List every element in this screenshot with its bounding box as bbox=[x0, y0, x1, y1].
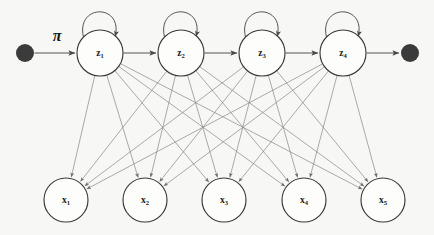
emission-edge-z1-x5 bbox=[120, 63, 362, 189]
observation-node-x5[interactable]: x5 bbox=[361, 178, 405, 222]
hidden-state-node-z1[interactable]: z1 bbox=[77, 30, 123, 76]
emission-edge-layer bbox=[71, 63, 377, 189]
annotation-layer: π bbox=[53, 27, 63, 44]
emission-edge-z1-x3 bbox=[115, 70, 209, 182]
emission-edge-z4-x4 bbox=[310, 75, 337, 178]
end-dot[interactable] bbox=[401, 44, 419, 62]
node-layer: z1z2z3z4x1x2x3x4x5 bbox=[44, 30, 405, 222]
emission-edge-z3-x3 bbox=[230, 75, 256, 177]
diagram-canvas: z1z2z3z4x1x2x3x4x5 π bbox=[0, 0, 434, 235]
observation-node-x2[interactable]: x2 bbox=[123, 178, 167, 222]
emission-edge-z1-x1 bbox=[71, 75, 95, 177]
hidden-state-node-z4[interactable]: z4 bbox=[320, 30, 366, 76]
emission-edge-z1-x2 bbox=[107, 75, 139, 178]
graphical-model-svg: z1z2z3z4x1x2x3x4x5 π bbox=[0, 0, 434, 235]
emission-edge-z1-x4 bbox=[118, 66, 285, 186]
hidden-state-node-z2[interactable]: z2 bbox=[158, 30, 204, 76]
emission-edge-z4-x5 bbox=[349, 75, 377, 178]
emission-edge-z4-x2 bbox=[164, 66, 325, 186]
start-dot[interactable] bbox=[16, 44, 34, 62]
emission-edge-z2-x2 bbox=[151, 75, 176, 177]
hidden-state-node-z3[interactable]: z3 bbox=[239, 30, 285, 76]
emission-edge-z3-x1 bbox=[85, 67, 244, 186]
self-loop-layer bbox=[83, 12, 360, 37]
emission-edge-z2-x5 bbox=[199, 66, 364, 186]
observation-node-x3[interactable]: x3 bbox=[202, 178, 246, 222]
emission-edge-z3-x5 bbox=[276, 70, 368, 181]
initial-distribution-label: π bbox=[53, 27, 63, 44]
observation-node-x1[interactable]: x1 bbox=[44, 178, 88, 222]
emission-edge-z2-x1 bbox=[80, 71, 167, 182]
emission-edge-z2-x4 bbox=[195, 70, 288, 182]
observation-node-x4[interactable]: x4 bbox=[282, 178, 326, 222]
